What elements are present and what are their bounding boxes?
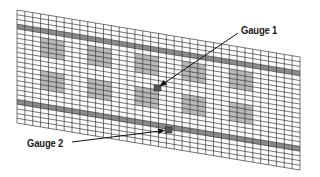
gauge-2-marker: [165, 127, 172, 133]
gauge-2-label: Gauge 2: [27, 137, 63, 149]
gauge-2-arrow-line: [72, 131, 160, 142]
gauge-1-label: Gauge 1: [241, 24, 277, 36]
